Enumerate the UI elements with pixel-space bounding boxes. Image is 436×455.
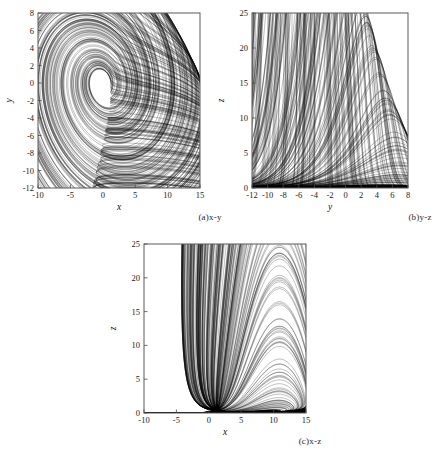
panel-b-xticklabel: 2	[359, 190, 363, 200]
panel-a-yticklabel: -4	[27, 113, 35, 123]
panel-b-yticklabel: 0	[244, 183, 248, 193]
panel-a-yticklabel: 4	[30, 43, 35, 53]
panel-c-xticklabel: -5	[173, 415, 180, 425]
panel-c-xticklabel: 5	[239, 415, 243, 425]
panel-c-svg: -10-50510150510152025xz	[100, 228, 320, 455]
panel-b-xticklabel: 0	[343, 190, 347, 200]
panel-c-trajectory	[100, 228, 320, 413]
panel-b-xticklabel: -8	[280, 190, 287, 200]
panel-b-xaxis-title: y	[327, 202, 333, 212]
panel-c-xticklabel: 15	[302, 415, 311, 425]
panel-c-xticklabel: 0	[207, 415, 211, 425]
panel-b-xticklabel: 4	[375, 190, 380, 200]
panel-b-yz-phase-portrait: -12-10-8-6-4-2024680510152025yz	[210, 0, 420, 228]
panel-b-svg: -12-10-8-6-4-2024680510152025yz	[210, 0, 420, 228]
panel-c-yticklabel: 10	[132, 340, 141, 350]
panel-a-xticklabel: -5	[67, 190, 74, 200]
panel-c-xz-phase-portrait: -10-50510150510152025xz	[100, 228, 320, 455]
panel-a-svg: -10-5051015-12-10-8-6-4-202468xy	[0, 0, 210, 228]
panel-a-xticklabel: 15	[196, 190, 205, 200]
panel-a-xaxis-title: x	[116, 202, 122, 212]
panel-a-xticklabel: -10	[32, 190, 43, 200]
panel-b-xticklabel: -10	[262, 190, 273, 200]
panel-b-yticklabel: 5	[244, 148, 248, 158]
panel-a-xticklabel: 0	[101, 190, 105, 200]
panel-a-yticklabel: 0	[30, 78, 34, 88]
panel-c-yaxis-title: z	[108, 326, 118, 331]
panel-c-yticklabel: 5	[136, 374, 140, 384]
panel-b-xticklabel: -6	[295, 190, 302, 200]
panel-a-xticklabel: 10	[163, 190, 172, 200]
panel-b-xticklabel: -4	[311, 190, 319, 200]
panel-c-yticklabel: 15	[132, 307, 141, 317]
panel-b-yticklabel: 10	[240, 113, 249, 123]
panel-c-yticklabel: 0	[136, 408, 140, 418]
panel-a-yticklabel: 8	[30, 8, 34, 18]
panel-a-yticklabel: -2	[27, 96, 34, 106]
panel-a-xticklabel: 5	[133, 190, 137, 200]
panel-b-xticklabel: 6	[390, 190, 394, 200]
panel-a-yticklabel: -10	[23, 166, 34, 176]
panel-c-xticklabel: 10	[269, 415, 278, 425]
panel-a-xy-phase-portrait: -10-5051015-12-10-8-6-4-202468xy	[0, 0, 210, 228]
panel-a-yticklabel: 2	[30, 61, 34, 71]
panel-b-yticklabel: 25	[240, 8, 249, 18]
panel-a-yticklabel: -12	[23, 183, 34, 193]
panel-c-yticklabel: 25	[132, 239, 141, 249]
panel-a-yticklabel: 6	[30, 26, 34, 36]
panel-b-yticklabel: 20	[240, 43, 249, 53]
panel-b-xticklabel: -12	[246, 190, 257, 200]
panel-b-xticklabel: -2	[326, 190, 333, 200]
panel-a-yticklabel: -6	[27, 131, 34, 141]
panel-b-yaxis-title: z	[216, 98, 226, 103]
panel-b-xticklabel: 8	[406, 190, 410, 200]
panel-a-yaxis-title: y	[4, 98, 14, 104]
panel-b-yticklabel: 15	[240, 78, 249, 88]
panel-b-caption: (b)y-z	[210, 212, 436, 222]
panel-c-xticklabel: -10	[138, 415, 149, 425]
panel-c-caption: (c)x-z	[100, 436, 436, 446]
panel-c-yticklabel: 20	[132, 273, 141, 283]
panel-a-yticklabel: -8	[27, 148, 34, 158]
panel-b-trajectory	[210, 0, 420, 188]
